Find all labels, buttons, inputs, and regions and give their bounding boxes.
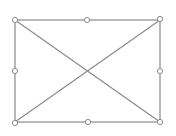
resize-handle-top-middle[interactable] [84, 17, 89, 22]
resize-handle-bottom-middle[interactable] [85, 119, 90, 124]
resize-handle-bottom-left[interactable] [12, 120, 17, 125]
resize-handle-middle-right[interactable] [157, 68, 162, 73]
resize-handle-top-left[interactable] [12, 17, 17, 22]
resize-handle-top-right[interactable] [157, 16, 162, 21]
placeholder-frame [15, 20, 160, 122]
resize-handle-middle-left[interactable] [12, 68, 17, 73]
resize-handle-bottom-right[interactable] [157, 119, 162, 124]
image-placeholder[interactable] [0, 0, 176, 136]
